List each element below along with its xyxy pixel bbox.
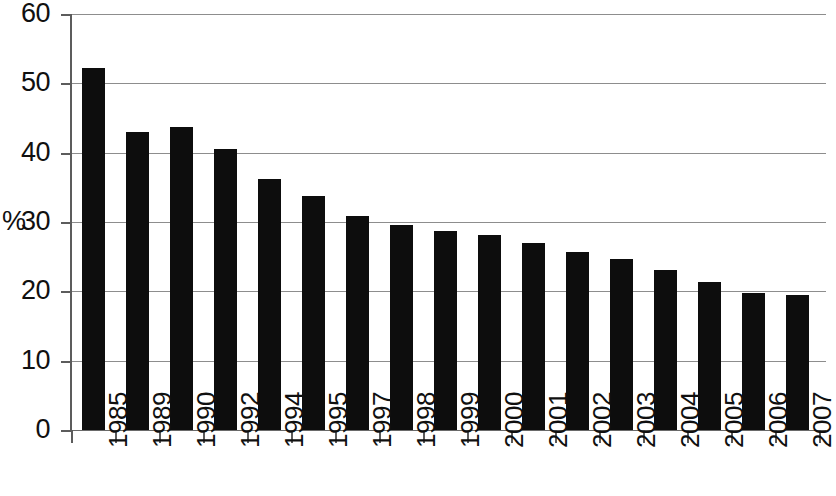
x-tick-label: 1997 xyxy=(369,392,395,448)
x-tick-label: 2007 xyxy=(809,392,835,448)
x-axis-baseline xyxy=(70,430,826,431)
x-tick-label: 1989 xyxy=(149,392,175,448)
y-tick-label: 60 xyxy=(2,0,50,27)
y-tick-10 xyxy=(61,361,71,363)
y-tick-label: 50 xyxy=(2,69,50,96)
y-tick-label: 40 xyxy=(2,139,50,166)
x-tick-label: 1999 xyxy=(457,392,483,448)
y-tick-30 xyxy=(61,222,71,224)
gridline-50 xyxy=(70,83,826,84)
x-tick-label: 1995 xyxy=(325,392,351,448)
bar xyxy=(82,68,105,430)
y-tick-40 xyxy=(61,153,71,155)
y-tick-0 xyxy=(61,430,71,432)
bar xyxy=(126,132,149,430)
x-tick-label: 1998 xyxy=(413,392,439,448)
bar xyxy=(214,149,237,430)
x-tick-label: 2004 xyxy=(677,392,703,448)
y-tick-label: 0 xyxy=(2,416,50,443)
x-tick-label: 1992 xyxy=(237,392,263,448)
x-tick-label: 1990 xyxy=(193,392,219,448)
y-axis-title: % xyxy=(2,208,26,235)
gridline-60 xyxy=(70,14,826,15)
y-tick-label: 20 xyxy=(2,277,50,304)
x-tick-label: 2003 xyxy=(633,392,659,448)
y-tick-60 xyxy=(61,14,71,16)
x-tick-label: 2000 xyxy=(501,392,527,448)
x-tick-label: 2002 xyxy=(589,392,615,448)
y-tick-20 xyxy=(61,291,71,293)
x-tick xyxy=(71,430,73,443)
bar xyxy=(170,127,193,430)
x-tick-label: 2006 xyxy=(765,392,791,448)
x-tick-label: 2005 xyxy=(721,392,747,448)
y-tick-50 xyxy=(61,83,71,85)
x-tick-label: 1994 xyxy=(281,392,307,448)
x-tick-label: 1985 xyxy=(105,392,131,448)
x-tick-label: 2001 xyxy=(545,392,571,448)
plot-area xyxy=(70,14,826,430)
y-tick-label: 10 xyxy=(2,347,50,374)
